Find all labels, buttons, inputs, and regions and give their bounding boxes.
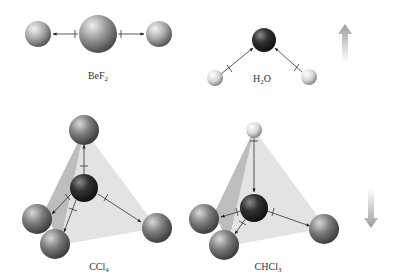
hydrogen-atom bbox=[301, 69, 317, 85]
carbon-atom bbox=[70, 174, 98, 202]
increasing-polarity-up-arrow-icon bbox=[338, 24, 352, 62]
fluorine-atom bbox=[25, 21, 51, 47]
chlorine-atom bbox=[22, 204, 52, 234]
hydrogen-atom bbox=[246, 122, 262, 138]
fluorine-atom bbox=[146, 21, 172, 47]
formula-subscript: 3 bbox=[278, 266, 282, 274]
ccl4-molecule bbox=[22, 115, 172, 259]
chlorine-atom bbox=[142, 213, 172, 243]
dipole-arrow bbox=[221, 48, 253, 74]
oxygen-atom bbox=[252, 28, 276, 52]
formula-text: CCl bbox=[89, 261, 105, 272]
beryllium-atom bbox=[79, 15, 117, 53]
molecular-polarity-diagram: BeF2 H2O CCl4 CHCl3 bbox=[0, 0, 400, 278]
hydrogen-atom bbox=[207, 70, 223, 86]
formula-text: BeF bbox=[88, 70, 105, 81]
ccl4-label: CCl4 bbox=[89, 261, 109, 274]
h2o-label: H2O bbox=[253, 73, 271, 86]
chlorine-atom bbox=[40, 229, 70, 259]
formula-subscript: 4 bbox=[105, 266, 109, 274]
chlorine-atom bbox=[69, 115, 99, 145]
formula-subscript: 2 bbox=[105, 75, 109, 83]
formula-text: O bbox=[264, 73, 271, 84]
carbon-atom bbox=[240, 194, 268, 222]
decreasing-polarity-down-arrow-icon bbox=[364, 188, 378, 228]
chcl3-molecule bbox=[189, 122, 339, 260]
chcl3-label: CHCl3 bbox=[255, 261, 282, 274]
dipole-arrow bbox=[275, 48, 302, 72]
chlorine-atom bbox=[189, 204, 219, 234]
bef2-label: BeF2 bbox=[88, 70, 108, 83]
formula-text: CHCl bbox=[255, 261, 278, 272]
bef2-molecule bbox=[25, 15, 172, 53]
chlorine-atom bbox=[209, 230, 239, 260]
diagram-canvas bbox=[0, 0, 400, 278]
chlorine-atom bbox=[309, 214, 339, 244]
